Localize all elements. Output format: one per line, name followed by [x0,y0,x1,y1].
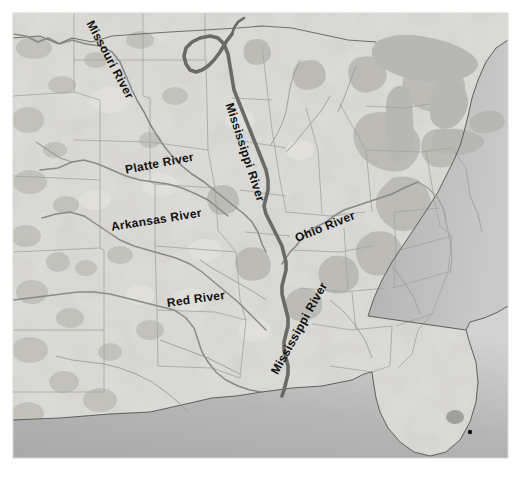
lake-okeechobee [446,410,464,424]
city-marker[interactable] [468,430,472,434]
map-figure: Missouri River Platte River Arkansas Riv… [0,0,521,479]
map-canvas[interactable] [0,0,521,479]
